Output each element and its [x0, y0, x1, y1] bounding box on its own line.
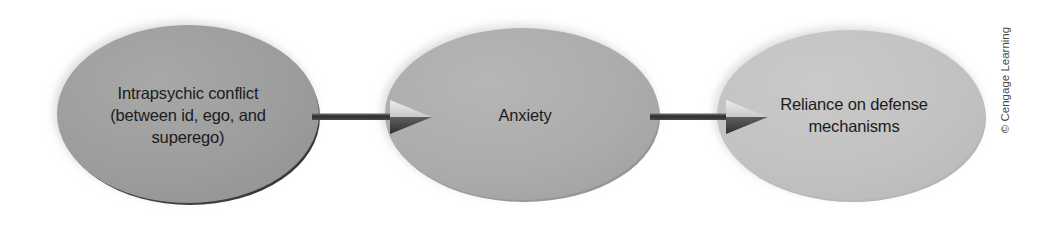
- flow-diagram-figure: Intrapsychic conflict (between id, ego, …: [0, 0, 1046, 228]
- node-anxiety-body: [385, 28, 659, 200]
- node-intrapsychic-conflict-body: [57, 25, 319, 203]
- node-intrapsychic-conflict[interactable]: [57, 25, 320, 205]
- copyright-credit: © Cengage Learning: [999, 6, 1011, 154]
- diagram-canvas: [0, 0, 1046, 228]
